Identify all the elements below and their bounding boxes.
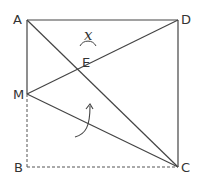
label-M: M — [13, 87, 24, 102]
fold-arrow-icon — [75, 106, 90, 137]
segment-AC — [27, 20, 178, 167]
label-B: B — [14, 160, 23, 175]
angle-label-x: x — [84, 26, 93, 44]
segment-MC — [27, 94, 178, 167]
label-E: E — [82, 55, 90, 70]
segment-MD — [27, 20, 178, 94]
label-C: C — [181, 160, 190, 175]
geometry-diagram: A D E M B C x — [0, 0, 204, 184]
label-A: A — [13, 12, 22, 27]
label-D: D — [181, 12, 191, 27]
